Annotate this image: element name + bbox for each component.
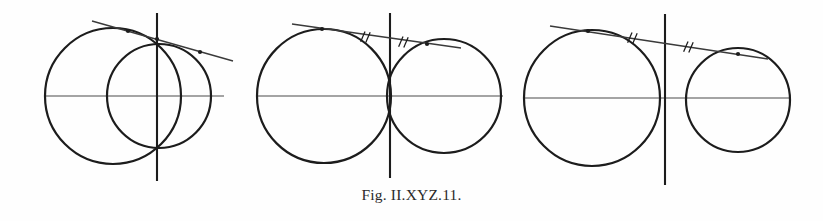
tangency-right xyxy=(736,52,740,56)
point-c xyxy=(198,50,202,54)
tangency-left xyxy=(586,29,590,33)
tangency-left xyxy=(320,27,324,31)
figure-caption: Fig. II.XYZ.11. xyxy=(0,186,823,204)
figure-root: Fig. II.XYZ.11. xyxy=(0,0,823,221)
point-b xyxy=(155,37,159,41)
point-a xyxy=(126,29,130,33)
tangency-right xyxy=(425,42,429,46)
